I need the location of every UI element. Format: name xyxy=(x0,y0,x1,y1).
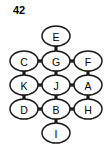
graph-node-D[interactable]: D xyxy=(10,99,38,119)
graph-node-label-A: A xyxy=(84,80,91,92)
graph-node-label-K: K xyxy=(20,80,27,92)
graph-node-B[interactable]: B xyxy=(42,99,70,119)
graph-node-label-G: G xyxy=(52,56,60,68)
graph-node-label-H: H xyxy=(84,104,92,116)
graph-node-label-E: E xyxy=(52,31,59,43)
graph-node-label-B: B xyxy=(52,104,59,116)
graph-canvas: ECGFKJADBHI xyxy=(0,0,112,167)
graph-node-label-C: C xyxy=(20,56,28,68)
graph-node-label-F: F xyxy=(85,56,91,68)
graph-node-J[interactable]: J xyxy=(42,75,70,95)
graph-node-label-J: J xyxy=(53,80,58,92)
graph-node-E[interactable]: E xyxy=(42,26,70,46)
node-layer: ECGFKJADBHI xyxy=(10,26,102,143)
graph-node-G[interactable]: G xyxy=(42,51,70,71)
graph-node-F[interactable]: F xyxy=(74,51,102,71)
graph-node-K[interactable]: K xyxy=(10,75,38,95)
graph-node-C[interactable]: C xyxy=(10,51,38,71)
graph-node-A[interactable]: A xyxy=(74,75,102,95)
graph-figure: 42 ECGFKJADBHI xyxy=(0,0,112,167)
graph-node-I[interactable]: I xyxy=(42,123,70,143)
graph-node-label-I: I xyxy=(55,128,58,140)
graph-node-label-D: D xyxy=(20,104,28,116)
graph-node-H[interactable]: H xyxy=(74,99,102,119)
